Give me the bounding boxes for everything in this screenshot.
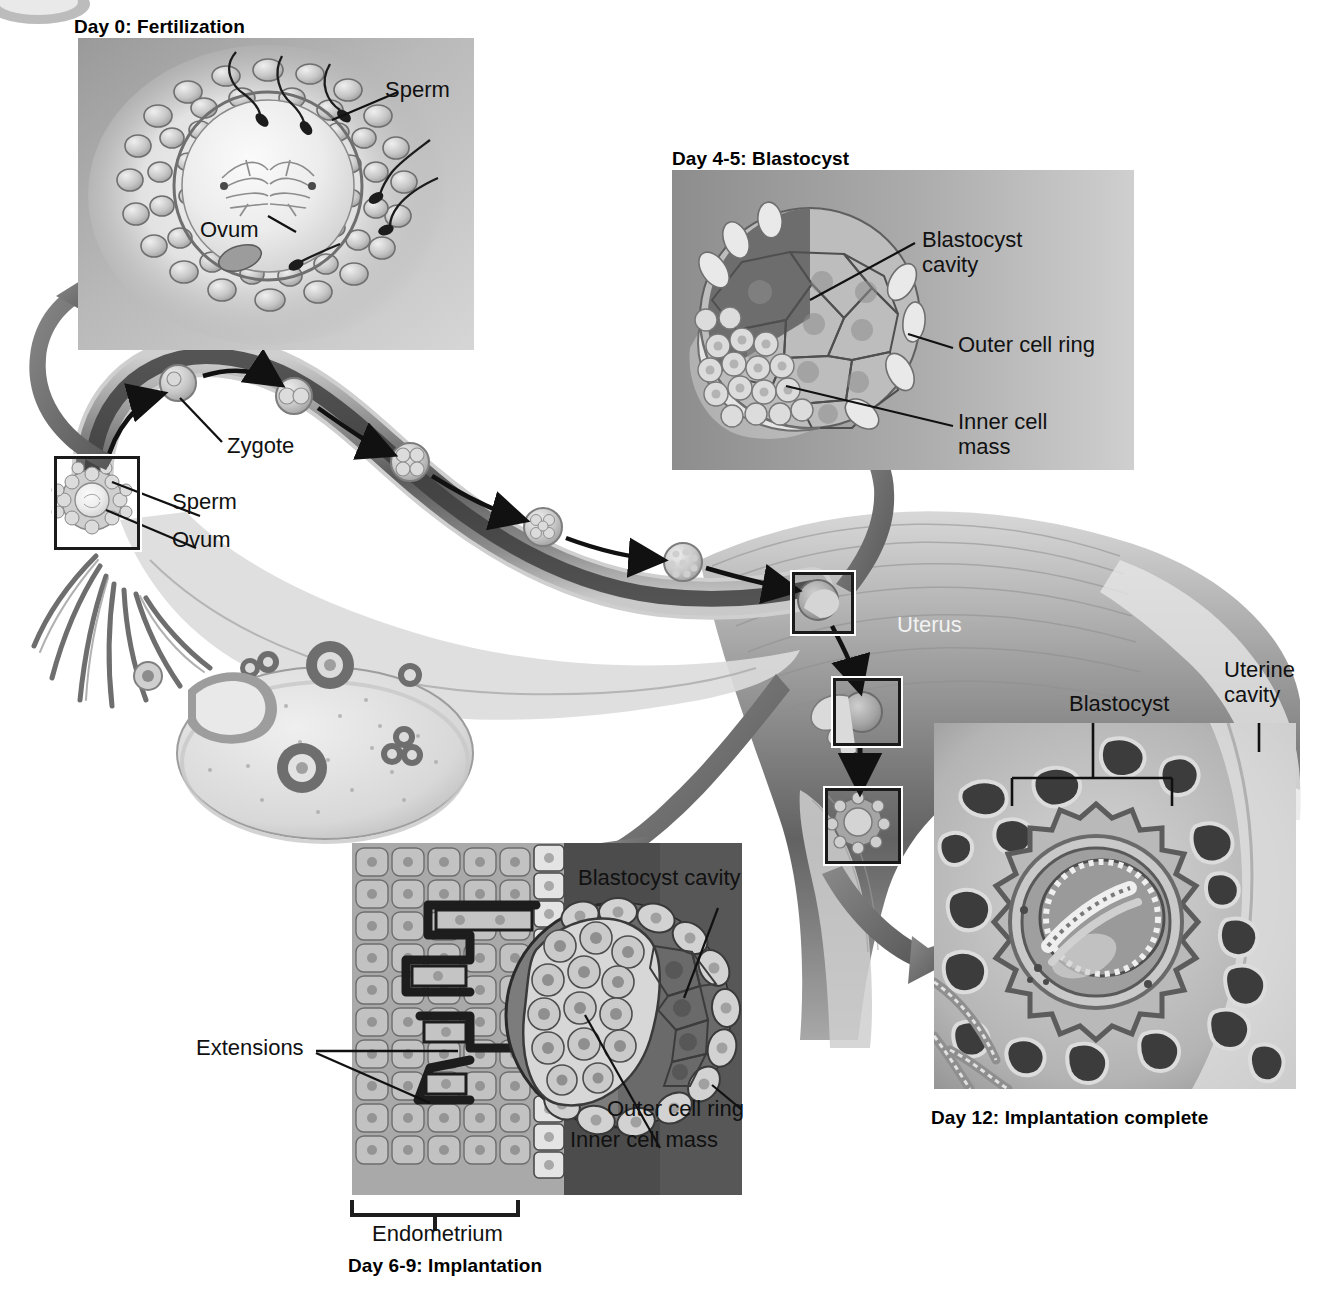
label-endometrium: Endometrium [372, 1222, 503, 1247]
caption-day69: Day 6-9: Implantation [348, 1255, 542, 1277]
inset-frame-attaching [833, 678, 901, 746]
label-blastocyst-day12: Blastocyst [1069, 692, 1169, 717]
label-blastocyst-cavity-day69: Blastocyst cavity [578, 866, 741, 891]
inset-frame-implanted [825, 788, 901, 864]
label-ovum-overview: Ovum [172, 528, 231, 553]
label-line-1: Inner cell [958, 409, 1047, 434]
inset-frame-fertilization [54, 456, 140, 550]
label-uterus: Uterus [897, 613, 962, 638]
label-line-2: mass [958, 434, 1011, 459]
label-zygote: Zygote [227, 434, 294, 459]
label-line-1: Uterine [1224, 657, 1295, 682]
label-outer-cell-ring-day45: Outer cell ring [958, 333, 1095, 358]
label-inner-cell-mass-day69: Inner cell mass [570, 1128, 718, 1153]
label-inner-cell-mass-day45: Inner cell mass [958, 410, 1108, 459]
label-blastocyst-cavity-day45: Blastocyst cavity [922, 228, 1072, 277]
label-outer-cell-ring-day69: Outer cell ring [607, 1097, 744, 1122]
label-sperm-overview: Sperm [172, 490, 237, 515]
label-line-2: cavity [922, 252, 978, 277]
inset-frame-blastocyst [792, 572, 854, 634]
panel-day12-art [934, 723, 1296, 1089]
caption-day0: Day 0: Fertilization [74, 16, 245, 38]
label-extensions: Extensions [196, 1036, 304, 1061]
label-line-2: cavity [1224, 682, 1280, 707]
figure-canvas: Day 0: Fertilization Sperm Ovum Day 4-5:… [0, 0, 1322, 1289]
caption-day45: Day 4-5: Blastocyst [672, 148, 849, 170]
label-line-1: Blastocyst [922, 227, 1022, 252]
label-sperm-day0: Sperm [385, 78, 450, 103]
label-ovum-day0: Ovum [200, 218, 259, 243]
caption-day12: Day 12: Implantation complete [931, 1107, 1208, 1129]
label-uterine-cavity: Uterine cavity [1224, 658, 1322, 707]
